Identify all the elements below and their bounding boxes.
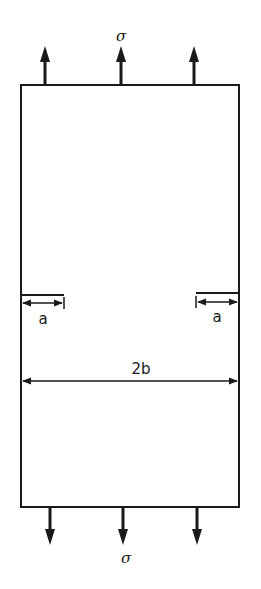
arrow-down-icon xyxy=(45,507,55,545)
crack-left-label: a xyxy=(38,310,47,328)
stress-label-top: σ xyxy=(116,27,127,45)
top-stress-arrows xyxy=(40,46,199,85)
arrow-down-icon xyxy=(118,507,128,545)
bottom-stress-arrows xyxy=(45,507,202,545)
arrow-up-icon xyxy=(40,46,50,85)
width-label: 2b xyxy=(131,360,150,378)
arrow-up-icon xyxy=(189,46,199,85)
arrow-down-icon xyxy=(192,507,202,545)
plate-diagram: σ σ a a 2b xyxy=(0,0,261,589)
crack-right-label: a xyxy=(212,308,221,326)
stress-label-bottom: σ xyxy=(121,549,132,567)
arrow-up-icon xyxy=(116,46,126,85)
